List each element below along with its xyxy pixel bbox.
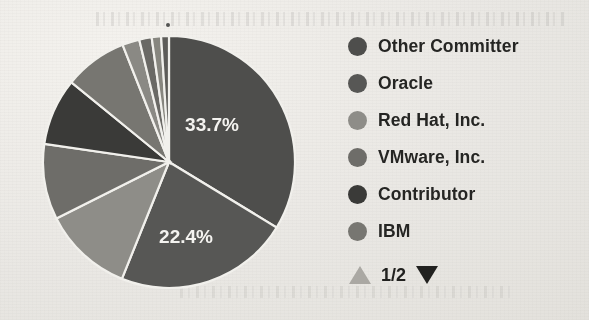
legend-item-label: VMware, Inc. <box>378 147 485 168</box>
scroll-up-triangle-icon[interactable] <box>349 266 371 284</box>
legend-item[interactable]: Contributor <box>348 176 586 213</box>
legend-pager: 1/2 <box>349 258 586 292</box>
pie-slice-percentage-label: 33.7% <box>185 114 239 135</box>
pie-svg: 33.7%22.4% <box>0 0 340 320</box>
scroll-down-triangle-icon[interactable] <box>416 266 438 284</box>
legend-color-swatch-icon <box>348 111 367 130</box>
legend-page-indicator: 1/2 <box>381 265 406 286</box>
legend-color-swatch-icon <box>348 185 367 204</box>
legend-color-swatch-icon <box>348 148 367 167</box>
legend-color-swatch-icon <box>348 222 367 241</box>
pie-slice-percentage-label: 22.4% <box>159 226 213 247</box>
legend-item-label: Red Hat, Inc. <box>378 110 485 131</box>
legend-color-swatch-icon <box>348 74 367 93</box>
legend-color-swatch-icon <box>348 37 367 56</box>
legend-item[interactable]: Oracle <box>348 65 586 102</box>
legend-item[interactable]: VMware, Inc. <box>348 139 586 176</box>
legend-item[interactable]: Red Hat, Inc. <box>348 102 586 139</box>
pie-chart-screenshot: 33.7%22.4% Other CommitterOracleRed Hat,… <box>0 0 589 320</box>
legend-item-label: Other Committer <box>378 36 519 57</box>
pie-slice-group <box>43 36 295 288</box>
legend-item-label: Contributor <box>378 184 475 205</box>
legend-item[interactable]: Other Committer <box>348 28 586 65</box>
legend-items-list: Other CommitterOracleRed Hat, Inc.VMware… <box>348 28 586 250</box>
legend-item[interactable]: IBM <box>348 213 586 250</box>
pie-chart-plot: 33.7%22.4% <box>0 0 340 320</box>
legend-item-label: Oracle <box>378 73 433 94</box>
legend-item-label: IBM <box>378 221 410 242</box>
chart-legend: Other CommitterOracleRed Hat, Inc.VMware… <box>348 28 586 292</box>
